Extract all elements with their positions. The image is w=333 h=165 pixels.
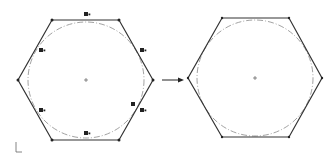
transform-arrow: [162, 78, 184, 83]
tangent-marker-icon: [140, 48, 144, 52]
right-sketch: [187, 17, 323, 138]
tangent-marker-icon: [39, 108, 43, 112]
axis-triad-icon: [16, 142, 22, 152]
tangent-marker-icon: [84, 131, 88, 135]
center-point-icon: [253, 76, 257, 80]
diagram-svg: [0, 0, 333, 165]
diagram-canvas: Sketch: hexagon with inscribed construct…: [0, 0, 333, 165]
tangent-marker-icon: [131, 102, 135, 106]
center-point-icon: [84, 78, 88, 82]
tangent-marker-icon: [39, 48, 43, 52]
tangent-marker-icon: [140, 108, 144, 112]
relation-markers: [39, 12, 146, 135]
tangent-marker-icon: [84, 12, 88, 16]
left-sketch: [16, 12, 155, 152]
